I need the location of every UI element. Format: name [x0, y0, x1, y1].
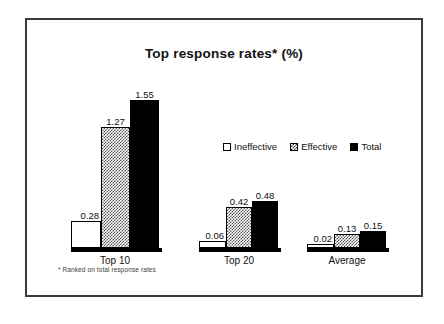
bar-value-label: 1.55 — [135, 90, 154, 100]
bar-ineffective-top-20[interactable]: 0.06 — [199, 241, 226, 248]
bar-group-top-10: 0.28 1.27 1.55 Top 10 — [71, 76, 159, 248]
legend-item-effective[interactable]: Effective — [290, 141, 337, 152]
category-label-top-10: Top 10 — [71, 255, 159, 266]
chart-legend: Ineffective Effective Total — [223, 141, 381, 152]
legend-label: Effective — [301, 141, 337, 152]
bar-value-label: 0.02 — [314, 234, 333, 244]
group-baseline — [71, 248, 162, 252]
bar-total-top-20[interactable]: 0.48 — [252, 201, 278, 248]
bar-group-bars: 0.28 1.27 1.55 — [71, 76, 159, 248]
bar-effective-top-10[interactable]: 1.27 — [101, 127, 130, 248]
bar-value-label: 0.06 — [206, 231, 225, 241]
legend-label: Total — [361, 141, 381, 152]
page-title: Top response rates* (%) — [27, 46, 421, 61]
hatched-square-icon — [290, 143, 298, 151]
bar-value-label: 0.48 — [256, 191, 275, 201]
bar-effective-average[interactable]: 0.13 — [334, 234, 360, 248]
white-square-icon — [223, 143, 231, 151]
legend-label: Ineffective — [234, 141, 277, 152]
bar-total-top-10[interactable]: 1.55 — [130, 100, 159, 248]
bar-wrap-ineffective: 0.28 — [71, 221, 101, 248]
bar-wrap-ineffective: 0.06 — [199, 241, 226, 248]
legend-item-ineffective[interactable]: Ineffective — [223, 141, 277, 152]
bar-wrap-effective: 0.13 — [334, 234, 360, 248]
bar-value-label: 0.15 — [364, 221, 383, 231]
bar-wrap-effective: 1.27 — [101, 127, 130, 248]
bar-group-top-20: 0.06 0.42 0.48 Top 20 — [199, 76, 279, 248]
bar-ineffective-top-10[interactable]: 0.28 — [71, 221, 101, 248]
bar-group-average: 0.02 0.13 0.15 Average — [307, 76, 387, 248]
black-square-icon — [350, 143, 358, 151]
bar-effective-top-20[interactable]: 0.42 — [226, 207, 252, 248]
category-label-top-20: Top 20 — [199, 255, 279, 266]
bar-wrap-total: 0.15 — [360, 231, 386, 248]
bar-value-label: 0.42 — [230, 197, 249, 207]
chart-plot-area: 0.28 1.27 1.55 Top 10 — [49, 76, 403, 248]
bar-wrap-total: 0.48 — [252, 201, 278, 248]
bar-group-bars: 0.06 0.42 0.48 — [199, 76, 279, 248]
group-baseline — [307, 248, 389, 252]
category-label-average: Average — [307, 255, 387, 266]
bar-wrap-effective: 0.42 — [226, 207, 252, 248]
chart-footnote: * Ranked on total response rates — [58, 266, 156, 273]
bar-total-average[interactable]: 0.15 — [360, 231, 386, 248]
bar-value-label: 0.13 — [338, 224, 357, 234]
group-baseline — [199, 248, 281, 252]
bar-wrap-total: 1.55 — [130, 100, 159, 248]
slide-frame: Top response rates* (%) 0.28 1.27 1.55 — [25, 18, 423, 297]
bar-value-label: 1.27 — [106, 117, 125, 127]
legend-item-total[interactable]: Total — [350, 141, 381, 152]
bar-value-label: 0.28 — [81, 211, 100, 221]
bar-group-bars: 0.02 0.13 0.15 — [307, 76, 387, 248]
